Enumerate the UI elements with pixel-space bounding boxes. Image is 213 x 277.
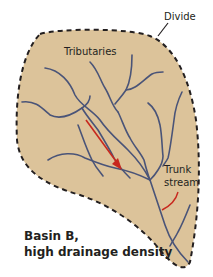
basin-title-line1: Basin B,: [24, 229, 79, 243]
basin-title-line2: high drainage density: [24, 245, 172, 259]
trunk-label: Trunk: [163, 164, 191, 175]
divide-leader-line: [158, 23, 168, 36]
tributaries-label: Tributaries: [63, 46, 117, 57]
drainage-basin-diagram: Divide Tributaries Trunk stream Basin B,…: [0, 0, 213, 277]
stream-label: stream: [164, 177, 199, 188]
divide-label: Divide: [164, 11, 196, 22]
